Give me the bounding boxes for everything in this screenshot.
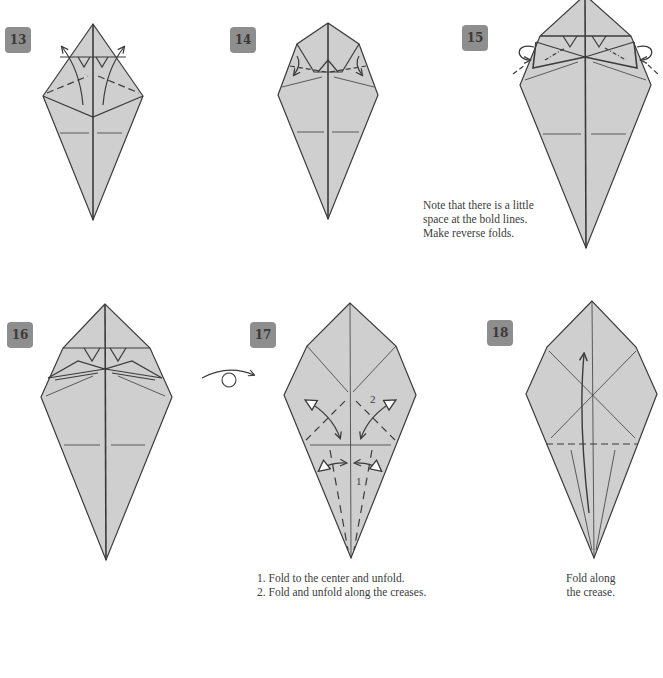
caption-line: space at the bold lines. (423, 212, 534, 226)
step-badge-17: 17 (250, 322, 276, 348)
caption-line: Make reverse folds. (423, 226, 534, 240)
step-18-caption: Fold along the crease. (566, 571, 616, 599)
step-17-label-2: 2 (370, 393, 376, 405)
step-17-caption: 1. Fold to the center and unfold. 2. Fol… (257, 571, 426, 599)
step-15-caption: Note that there is a little space at the… (423, 198, 534, 240)
caption-line: 2. Fold and unfold along the creases. (257, 585, 426, 599)
step-13-figure (43, 24, 143, 220)
step-badge-14: 14 (230, 27, 256, 53)
turn-over-icon (202, 370, 254, 387)
step-15-figure (513, 0, 658, 248)
step-17-label-1: 1 (356, 475, 362, 487)
step-badge-18: 18 (487, 320, 513, 346)
caption-line: Fold along (566, 571, 616, 585)
step-badge-16: 16 (7, 322, 33, 348)
step-17-figure (284, 303, 416, 558)
step-badge-15: 15 (462, 25, 488, 51)
caption-line: the crease. (566, 585, 616, 599)
caption-line: 1. Fold to the center and unfold. (257, 571, 426, 585)
step-badge-13: 13 (5, 27, 31, 53)
caption-line: Note that there is a little (423, 198, 534, 212)
step-16-figure (41, 304, 172, 560)
step-18-figure (526, 301, 657, 558)
step-14-figure (278, 23, 378, 219)
